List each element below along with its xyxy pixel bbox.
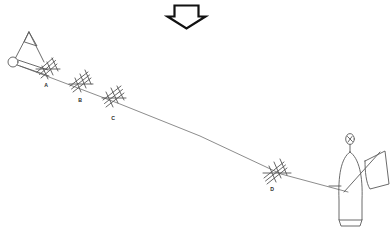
marker-label-b: B (78, 97, 82, 103)
main-diagonal-line (20, 66, 348, 192)
marker-b (69, 70, 93, 92)
diagram-canvas: A B C (0, 0, 392, 233)
marker-d (263, 159, 291, 184)
person-figure (329, 134, 362, 226)
flag-icon (344, 151, 389, 192)
down-arrow-icon (168, 6, 206, 29)
marker-label-a: A (44, 82, 48, 88)
marker-label-c: C (111, 115, 115, 121)
marker-c (102, 86, 126, 107)
marker-label-d: D (270, 186, 274, 192)
